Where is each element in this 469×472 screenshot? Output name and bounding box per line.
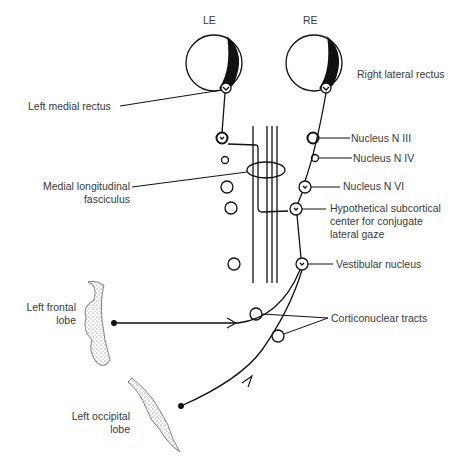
right-eye-icon: [286, 35, 342, 93]
left-eye-icon: [186, 35, 242, 93]
left-eye-label: LE: [203, 14, 216, 27]
nucleus-n3-label: Nucleus N III: [351, 132, 411, 145]
n6-nucleus-icon: [299, 181, 311, 193]
right-lateral-rectus-label: Right lateral rectus: [357, 68, 445, 81]
left-n3-nucleus-icon: [217, 133, 228, 144]
corticonuclear-tracts-label: Corticonuclear tracts: [331, 312, 427, 325]
left-medial-rectus-label: Left medial rectus: [28, 100, 111, 113]
occipital-lobe-label: Left occipital lobe: [40, 410, 130, 436]
frontal-lobe-icon: [85, 281, 110, 365]
vestibular-nucleus-icon: [296, 258, 308, 270]
occipital-lobe-icon: [128, 378, 180, 452]
oculomotor-pathway-diagram: LE RE Left medial rectus Right lateral r…: [0, 0, 469, 472]
nucleus-n6-label: Nucleus N VI: [343, 180, 404, 193]
right-eye-label: RE: [303, 14, 318, 27]
nucleus-n4-label: Nucleus N IV: [353, 152, 414, 165]
gaze-center-label: Hypothetical subcortical center for conj…: [330, 202, 441, 241]
frontal-lobe-label: Left frontal lobe: [4, 301, 76, 327]
gaze-center-icon: [290, 203, 302, 215]
mlf-label: Medial longitudinal fasciculus: [30, 180, 130, 206]
vestibular-nucleus-label: Vestibular nucleus: [336, 258, 421, 271]
